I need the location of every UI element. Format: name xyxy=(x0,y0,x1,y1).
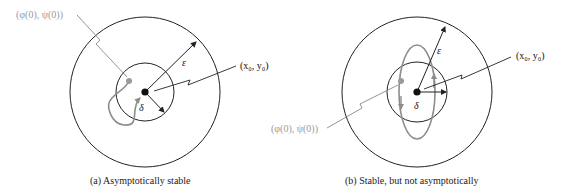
equilibrium-point xyxy=(413,88,420,95)
panel-a xyxy=(70,15,236,167)
initial-point-leader xyxy=(77,15,127,77)
initial-point xyxy=(126,78,132,84)
delta-label: δ xyxy=(414,100,419,111)
equilibrium-label: (x₀, y₀) xyxy=(240,60,269,71)
delta-radius-arrow xyxy=(145,92,164,112)
epsilon-radius-arrow xyxy=(417,27,445,92)
initial-point-label: (φ(0), ψ(0)) xyxy=(271,123,318,134)
equilibrium-leader xyxy=(424,57,511,89)
epsilon-label: ε xyxy=(182,57,186,68)
delta-label: δ xyxy=(139,102,144,113)
equilibrium-point xyxy=(141,88,148,95)
stability-diagram xyxy=(0,0,561,188)
initial-point-label: (φ(0), ψ(0)) xyxy=(16,9,63,20)
trajectory-path xyxy=(109,81,140,125)
equilibrium-label: (x₀, y₀) xyxy=(516,50,545,61)
initial-point xyxy=(398,78,404,84)
panel-b xyxy=(327,17,511,167)
caption-a: (a) Asymptotically stable xyxy=(90,175,191,186)
caption-b: (b) Stable, but not asymptotically xyxy=(345,175,479,186)
epsilon-label: ε xyxy=(437,45,441,56)
equilibrium-leader xyxy=(154,66,236,91)
